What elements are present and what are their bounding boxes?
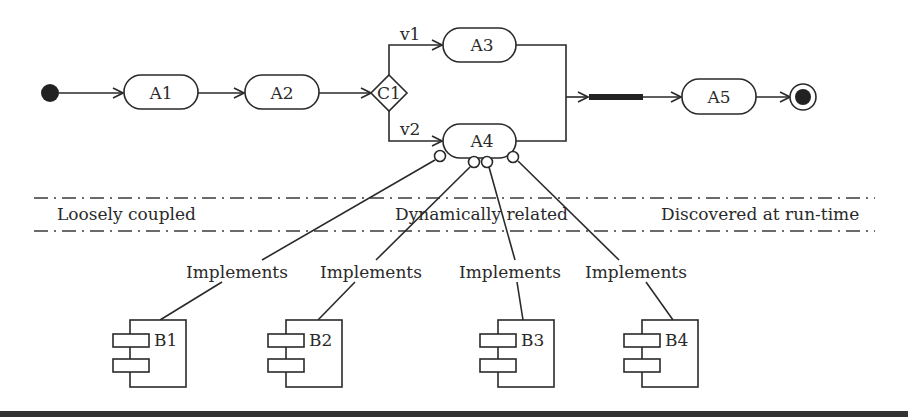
activity-a1: A1 [124,75,198,109]
relation-label-3: Implements [459,262,561,282]
component-b2-label: B2 [309,330,332,350]
link-impl-b4 [646,282,673,320]
flow-c1-a3 [389,45,442,75]
activity-diagram: A1 A2 C1 v1 v2 A3 A4 A5 [0,0,908,419]
zone-label-loosely-coupled: Loosely coupled [57,204,196,224]
component-b1-label: B1 [154,330,177,350]
relation-label-2: Implements [320,262,422,282]
relation-label-4: Implements [585,262,687,282]
decision-c1-label: C1 [377,83,401,103]
component-b4: B4 [624,320,698,387]
a4-socket-1-icon [435,151,446,162]
activity-a3-label: A3 [469,35,493,55]
flow-a3-join [516,45,566,141]
decision-c1: C1 [371,75,407,111]
link-impl-b2 [318,282,355,320]
activity-a5-label: A5 [706,87,730,107]
zone-label-dynamically-related: Dynamically related [395,204,568,224]
component-b3: B3 [480,320,554,387]
activity-a1-label: A1 [148,83,172,103]
a4-socket-4-icon [508,152,519,163]
activity-a2-label: A2 [269,83,293,103]
activity-a3: A3 [443,28,516,62]
join-bar [589,94,643,100]
bottom-rule [0,411,908,417]
relation-label-1: Implements [186,262,288,282]
branch-v1-label: v1 [399,24,420,44]
initial-node-icon [41,84,59,102]
link-impl-b3 [517,282,523,320]
activity-a2: A2 [245,75,319,109]
component-b4-label: B4 [665,330,688,350]
component-b2: B2 [268,320,342,387]
component-b3-label: B3 [521,330,544,350]
activity-a4: A4 [443,124,516,158]
component-b1: B1 [113,320,186,387]
branch-v2-label: v2 [399,119,420,139]
final-node-icon [790,84,816,110]
activity-a5: A5 [682,79,756,114]
activity-a4-label: A4 [469,131,493,151]
zone-label-discovered-runtime: Discovered at run-time [661,204,859,224]
a4-socket-3-icon [482,157,493,168]
a4-socket-2-icon [469,157,480,168]
link-impl-b1 [160,282,222,320]
